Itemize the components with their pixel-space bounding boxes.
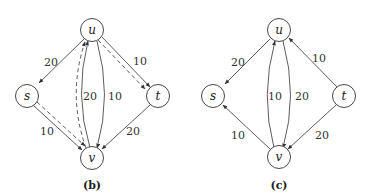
- node-u: u: [81, 19, 104, 42]
- node-s: s: [202, 85, 225, 108]
- edge-v-s: [223, 105, 270, 149]
- edge-u-v: [283, 41, 291, 148]
- edge-s-v-dashed: [37, 102, 85, 146]
- weight-t-v: 20: [315, 129, 329, 142]
- weight-u-s: 20: [44, 56, 58, 69]
- svg-text:u: u: [88, 23, 96, 37]
- svg-text:t: t: [342, 89, 347, 103]
- edge-t-v: [288, 105, 336, 149]
- weight-u-s: 20: [231, 56, 245, 69]
- weight-v-u: 20: [83, 90, 97, 103]
- diagram-canvas: 20 10 10 20 20 10 u s t v (b): [0, 0, 372, 196]
- weight-s-v: 10: [40, 125, 54, 138]
- caption-b: (b): [83, 179, 101, 192]
- node-t: t: [147, 85, 170, 108]
- svg-text:s: s: [210, 89, 216, 103]
- edge-u-v: [97, 41, 105, 148]
- svg-text:s: s: [24, 89, 30, 103]
- node-t: t: [333, 85, 356, 108]
- graph-c: 20 10 10 20 10 20 u s t v (c): [202, 19, 356, 193]
- weight-u-v: 10: [108, 90, 122, 103]
- svg-text:u: u: [275, 23, 283, 37]
- node-v: v: [268, 146, 291, 169]
- weight-v-u: 10: [268, 90, 282, 103]
- svg-text:v: v: [89, 151, 96, 165]
- caption-c: (c): [270, 179, 287, 192]
- graph-b: 20 10 10 20 20 10 u s t v (b): [16, 19, 170, 193]
- svg-text:t: t: [156, 89, 161, 103]
- weight-v-s: 10: [231, 129, 245, 142]
- weight-t-u: 10: [312, 52, 326, 65]
- weight-u-t: 10: [133, 55, 147, 68]
- node-u: u: [268, 19, 291, 42]
- node-v: v: [81, 147, 104, 170]
- svg-text:v: v: [276, 150, 283, 164]
- weight-t-v: 20: [126, 125, 140, 138]
- weight-u-v: 20: [295, 90, 309, 103]
- node-s: s: [16, 85, 39, 108]
